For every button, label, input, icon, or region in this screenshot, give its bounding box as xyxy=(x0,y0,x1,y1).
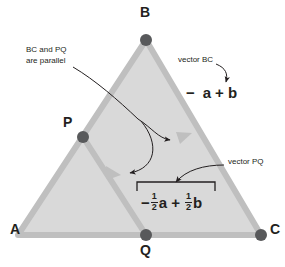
expr-plus-sign: + xyxy=(215,85,224,100)
fraction-denominator: 2 xyxy=(151,203,158,213)
expr2-vector-a: a xyxy=(159,195,167,210)
parallel-note-arrow-to-bc xyxy=(138,119,170,140)
parallel-note-text: BC and PQ are parallel xyxy=(26,45,66,66)
expr2-fraction-half-b: 1 2 xyxy=(185,192,192,212)
fraction-denominator: 2 xyxy=(185,203,192,213)
expr2-minus-sign: − xyxy=(141,195,150,210)
vertex-label-c: C xyxy=(270,222,280,236)
expr2-plus-sign: + xyxy=(171,195,180,210)
expression-bracket xyxy=(137,182,215,191)
vector-bc-callout-arrow xyxy=(216,64,227,82)
vector-pq-label-text: vector PQ xyxy=(228,157,264,168)
diagram-canvas: A B C P Q BC and PQ are parallel vector … xyxy=(0,0,285,267)
fraction-numerator: 1 xyxy=(185,192,192,202)
fraction-numerator: 1 xyxy=(151,192,158,202)
parallel-note-leader xyxy=(73,67,138,119)
expr2-fraction-half-a: 1 2 xyxy=(151,192,158,212)
expr2-vector-b: b xyxy=(193,195,202,210)
expr-vector-a: a xyxy=(203,85,211,100)
vertex-label-a: A xyxy=(10,222,20,236)
vector-pq-callout-arrow xyxy=(176,165,224,182)
vector-bc-label-text: vector BC xyxy=(178,55,213,66)
parallel-note-arrow-to-pq xyxy=(130,121,153,173)
vector-bc-expression: − a + b xyxy=(186,85,237,100)
annotation-layer xyxy=(0,0,285,267)
expr-vector-b: b xyxy=(228,85,237,100)
vector-pq-expression: − 1 2 a + 1 2 b xyxy=(141,192,202,212)
midpoint-label-q: Q xyxy=(140,243,151,257)
midpoint-label-p: P xyxy=(63,115,72,129)
expr-minus-sign: − xyxy=(186,85,195,100)
vertex-label-b: B xyxy=(140,5,150,19)
